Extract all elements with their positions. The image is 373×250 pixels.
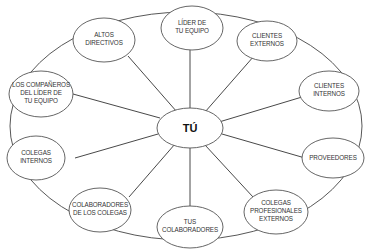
svg-text:EXTERNOS: EXTERNOS bbox=[259, 215, 293, 222]
svg-text:TU EQUIPO: TU EQUIPO bbox=[24, 97, 58, 105]
stakeholder-diagram: TÚ LÍDER DE TU EQUIPO CLIENTES EXTERNOS … bbox=[0, 0, 373, 250]
svg-text:TU EQUIPO: TU EQUIPO bbox=[175, 27, 209, 35]
node-altos-directivos: ALTOS DIRECTIVOS bbox=[73, 18, 135, 62]
node-tus-colaboradores: TUS COLABORADORES bbox=[157, 206, 223, 248]
svg-text:COLABORADORES: COLABORADORES bbox=[72, 201, 128, 208]
node-clientes-externos: CLIENTES EXTERNOS bbox=[237, 21, 297, 61]
svg-text:DIRECTIVOS: DIRECTIVOS bbox=[85, 39, 123, 46]
center-label: TÚ bbox=[183, 122, 198, 134]
svg-text:ALTOS: ALTOS bbox=[94, 31, 114, 38]
svg-text:INTERNOS: INTERNOS bbox=[313, 90, 345, 97]
svg-text:COLABORADORES: COLABORADORES bbox=[162, 226, 218, 233]
svg-text:DE LOS COLEGAS: DE LOS COLEGAS bbox=[73, 209, 127, 216]
svg-text:COLEGAS: COLEGAS bbox=[21, 149, 51, 156]
node-clientes-internos: CLIENTES INTERNOS bbox=[299, 71, 359, 111]
node-colegas-internos: COLEGAS INTERNOS bbox=[7, 136, 65, 180]
svg-text:LÍDER DE: LÍDER DE bbox=[178, 18, 206, 26]
svg-text:DEL LÍDER DE: DEL LÍDER DE bbox=[20, 88, 62, 96]
node-lider-de-tu-equipo: LÍDER DE TU EQUIPO bbox=[161, 6, 223, 50]
svg-text:TUS: TUS bbox=[184, 218, 196, 225]
svg-text:CLIENTES: CLIENTES bbox=[252, 32, 282, 39]
node-colaboradores-de-los-colegas: COLABORADORES DE LOS COLEGAS bbox=[69, 188, 131, 232]
node-proveedores: PROVEEDORES bbox=[302, 138, 364, 178]
svg-text:PROFESIONALES: PROFESIONALES bbox=[250, 207, 302, 214]
svg-text:EXTERNOS: EXTERNOS bbox=[250, 40, 284, 47]
svg-text:LOS COMPAÑEROS: LOS COMPAÑEROS bbox=[12, 80, 70, 88]
svg-text:COLEGAS: COLEGAS bbox=[261, 199, 291, 206]
svg-text:CLIENTES: CLIENTES bbox=[314, 82, 344, 89]
center-node: TÚ bbox=[157, 108, 223, 148]
svg-text:INTERNOS: INTERNOS bbox=[20, 157, 52, 164]
node-colegas-profesionales-externos: COLEGAS PROFESIONALES EXTERNOS bbox=[244, 190, 308, 234]
node-los-companeros-del-lider: LOS COMPAÑEROS DEL LÍDER DE TU EQUIPO bbox=[9, 71, 73, 117]
svg-text:PROVEEDORES: PROVEEDORES bbox=[309, 154, 357, 161]
